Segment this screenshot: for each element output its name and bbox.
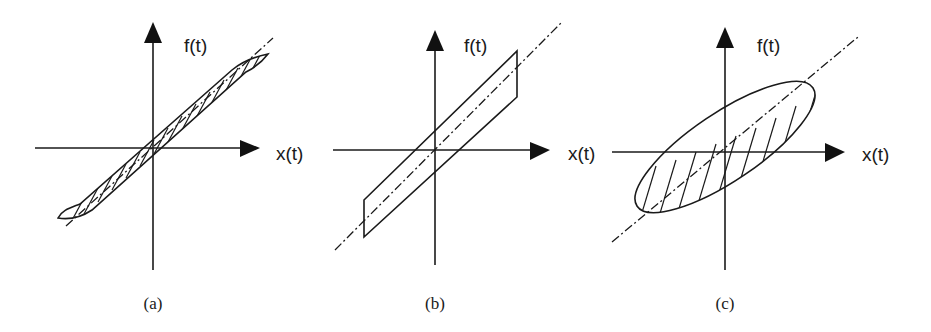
hysteresis-loops-figure: f(t) x(t) (a) f(t) x(t) (b) <box>0 0 931 332</box>
panel-a: f(t) x(t) (a) <box>35 22 303 313</box>
x-axis-label-b: x(t) <box>568 143 595 164</box>
x-axis-arrow-icon <box>240 140 260 157</box>
hatching-c <box>632 78 836 246</box>
reference-line-a <box>66 38 273 226</box>
caption-c: (c) <box>716 294 735 313</box>
y-axis-label-c: f(t) <box>757 35 780 56</box>
reference-line-b <box>335 22 562 250</box>
y-axis-label-a: f(t) <box>184 35 207 56</box>
panel-c: f(t) x(t) (c) <box>612 27 889 313</box>
panel-b: f(t) x(t) (b) <box>333 22 595 313</box>
y-axis-arrow-icon <box>426 30 444 51</box>
y-axis-arrow-icon <box>716 27 734 48</box>
x-axis-label-c: x(t) <box>862 144 889 165</box>
x-axis-label-a: x(t) <box>276 143 303 164</box>
x-axis-arrow-icon <box>530 142 550 160</box>
x-axis-arrow-icon <box>825 143 845 162</box>
y-axis-arrow-icon <box>144 22 162 43</box>
figure-canvas: f(t) x(t) (a) f(t) x(t) (b) <box>0 0 931 332</box>
caption-b: (b) <box>425 294 445 313</box>
y-axis-label-b: f(t) <box>464 35 487 56</box>
caption-a: (a) <box>144 294 163 313</box>
